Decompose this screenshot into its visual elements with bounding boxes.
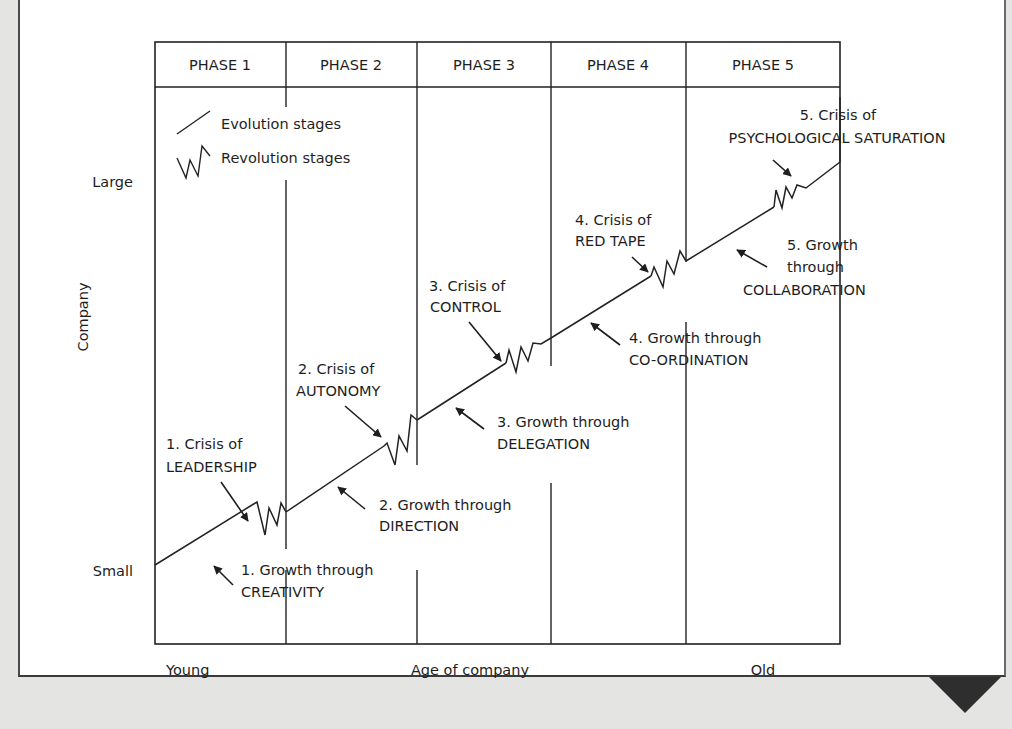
revolution-zigzag-2	[384, 415, 417, 465]
growth-2-line1: 2. Growth through	[379, 497, 512, 513]
growth-1-line1: 1. Growth through	[241, 562, 374, 578]
arrow-growth-4-icon	[591, 323, 620, 345]
crisis-3-line2: CONTROL	[430, 299, 501, 315]
growth-4-line1: 4. Growth through	[629, 330, 762, 346]
arrow-growth-3-icon	[456, 408, 484, 429]
arrow-crisis-3-icon	[469, 322, 501, 361]
legend: Evolution stages Revolution stages	[177, 111, 350, 178]
x-axis-right-label: Old	[751, 662, 776, 678]
legend-revolution-label: Revolution stages	[221, 150, 350, 166]
growth-3-line1: 3. Growth through	[497, 414, 630, 430]
crisis-4-line2: RED TAPE	[575, 233, 646, 249]
evolution-segment-5	[686, 207, 774, 261]
phase-header-4: PHASE 4	[587, 57, 649, 73]
revolution-zigzag-1	[252, 502, 286, 535]
axis-labels: Large Small Company Young Age of company…	[75, 174, 775, 678]
crisis-5-line1: 5. Crisis of	[800, 107, 877, 123]
phase-header-1: PHASE 1	[189, 57, 251, 73]
crisis-1-line2: LEADERSHIP	[166, 459, 257, 475]
y-axis-title: Company	[75, 282, 91, 351]
growth-labels: 1. Growth through CREATIVITY 2. Growth t…	[241, 237, 866, 600]
revolution-zigzag-icon	[177, 146, 210, 178]
crisis-4-line1: 4. Crisis of	[575, 212, 652, 228]
evolution-segment-1	[155, 505, 252, 565]
growth-2-line2: DIRECTION	[379, 518, 459, 534]
arrow-crisis-4-icon	[632, 257, 648, 272]
evolution-segment-2	[286, 446, 384, 512]
revolution-zigzag-3	[506, 338, 551, 372]
phase-header-5: PHASE 5	[732, 57, 794, 73]
x-axis-title: Age of company	[411, 662, 529, 678]
crisis-3-line1: 3. Crisis of	[429, 278, 506, 294]
crisis-1-line1: 1. Crisis of	[166, 436, 243, 452]
growth-5-line3: COLLABORATION	[743, 282, 866, 298]
growth-model-diagram: PHASE 1 PHASE 2 PHASE 3 PHASE 4 PHASE 5 …	[0, 0, 1012, 729]
arrow-growth-2-icon	[338, 487, 365, 509]
phase-header-2: PHASE 2	[320, 57, 382, 73]
growth-5-line1: 5. Growth	[787, 237, 858, 253]
crisis-2-line1: 2. Crisis of	[298, 361, 375, 377]
arrow-crisis-2-icon	[345, 406, 381, 437]
arrow-growth-1-icon	[214, 566, 233, 585]
growth-3-line2: DELEGATION	[497, 436, 590, 452]
phase-header-row: PHASE 1 PHASE 2 PHASE 3 PHASE 4 PHASE 5	[189, 57, 794, 73]
y-axis-top-label: Large	[92, 174, 133, 190]
arrow-growth-5-icon	[737, 250, 767, 267]
x-axis-left-label: Young	[165, 662, 209, 678]
crisis-5-line2: PSYCHOLOGICAL SATURATION	[728, 130, 945, 146]
growth-5-line2: through	[787, 259, 844, 275]
evolution-segment-4	[551, 276, 651, 338]
evolution-line-icon	[177, 111, 210, 134]
arrow-crisis-5-icon	[773, 160, 791, 176]
growth-4-line2: CO-ORDINATION	[629, 352, 749, 368]
growth-1-line2: CREATIVITY	[241, 584, 324, 600]
y-axis-bottom-label: Small	[93, 563, 133, 579]
revolution-zigzag-4	[651, 251, 686, 287]
crisis-2-line2: AUTONOMY	[296, 383, 381, 399]
legend-evolution-label: Evolution stages	[221, 116, 341, 132]
phase-header-3: PHASE 3	[453, 57, 515, 73]
